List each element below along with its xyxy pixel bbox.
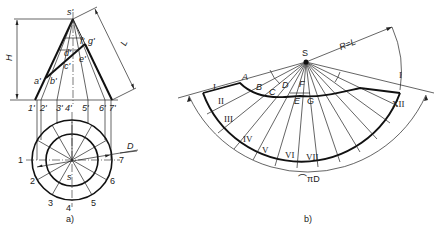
apex-top-label: s: [67, 172, 72, 182]
figure-a: H L s' a': [4, 7, 138, 224]
top-label-6: 6: [110, 176, 115, 186]
figure-b-caption: b): [304, 214, 312, 224]
generator-line: [253, 62, 306, 160]
radial-line: [72, 160, 92, 195]
roman-V: V: [262, 145, 269, 155]
point-D-label: D: [282, 80, 289, 90]
roman-VI: VI: [285, 150, 295, 160]
figure-b: R=L ⌒πD S: [178, 27, 434, 224]
outer-arc-extension: [392, 27, 402, 90]
point-B-label: B: [256, 82, 262, 92]
cone-development-drawing: H L s' a': [0, 0, 438, 230]
slant-label: L: [118, 39, 129, 48]
generator-line: [306, 62, 398, 106]
arrow-icon: [386, 27, 392, 31]
radial-line: [72, 125, 92, 160]
extension-line-top: [73, 7, 97, 19]
gen-label-1: 1': [28, 103, 35, 113]
gen-label-6: 6': [99, 103, 106, 113]
arc-length-label: ⌒πD: [298, 174, 320, 184]
generator-6: [73, 19, 105, 100]
arrow-down-icon: [16, 94, 19, 99]
roman-II: II: [218, 96, 224, 106]
radial-line: [72, 140, 107, 160]
gen-label-5: 5': [82, 103, 89, 113]
diameter-label: D: [127, 141, 134, 151]
top-label-3: 3: [48, 198, 53, 208]
roman-VII: VII: [306, 152, 319, 162]
sector-outer-arc: [203, 93, 400, 162]
point-C-label: C: [269, 87, 276, 97]
apex-label: s': [67, 7, 74, 17]
roman-III: III: [224, 114, 233, 124]
generator-line: [306, 62, 340, 162]
point-F-label: F: [299, 79, 305, 89]
cone-front-view: H L s' a': [4, 7, 136, 160]
gen-label-2: 2': [39, 103, 47, 113]
point-A-label: A: [241, 72, 248, 82]
top-label-4: 4: [66, 203, 71, 213]
radius-label: R=L: [338, 36, 357, 52]
top-label-2: 2: [30, 176, 35, 186]
roman-IV: IV: [243, 134, 253, 144]
top-label-1: 1: [18, 155, 23, 165]
roman-I-left: I: [213, 82, 216, 92]
cone-top-view: D s 1 2 3 4 5 6 7: [18, 112, 138, 213]
radial-line: [37, 140, 72, 160]
gen-label-4: 4': [65, 103, 72, 113]
generator-line: [306, 62, 390, 123]
point-G-label: G: [307, 96, 314, 106]
top-label-5: 5: [91, 198, 96, 208]
gen-label-3: 3': [56, 103, 63, 113]
point-f-label: f': [80, 36, 85, 46]
point-d-label: d': [64, 48, 71, 58]
point-a-label: a': [34, 76, 41, 86]
point-g-label: g': [88, 36, 95, 46]
point-E-label: E: [294, 96, 301, 106]
radial-line: [52, 125, 72, 160]
figure-a-caption: a): [66, 214, 74, 224]
extension-line-bottom: [112, 88, 136, 100]
top-label-7: 7: [119, 155, 124, 165]
arrow-icon: [37, 165, 43, 168]
generator-3: [57, 19, 73, 100]
apex-point: [304, 60, 309, 65]
point-e-label: e': [79, 54, 86, 64]
roman-I-right: I: [399, 70, 402, 80]
generator-line: [306, 62, 377, 139]
arrow-icon: [105, 155, 110, 158]
radial-line: [72, 160, 107, 180]
roman-XII: XII: [392, 99, 405, 109]
angle-arc: [270, 70, 280, 84]
apex-label: S: [302, 48, 308, 58]
generator-line: [306, 62, 360, 152]
point-c-label: c': [64, 61, 71, 71]
height-label: H: [4, 54, 14, 61]
point-b-label: b': [50, 76, 57, 86]
gen-label-7: 7': [109, 103, 116, 113]
sector-generators: [207, 62, 398, 168]
cone-right-slant-cut: [85, 44, 112, 100]
arrow-up-icon: [16, 20, 19, 25]
